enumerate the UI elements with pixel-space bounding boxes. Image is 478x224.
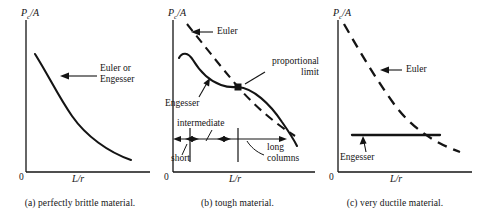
panel-b-caption: (b) tough material. bbox=[155, 198, 320, 208]
annotation-engesser: Engesser bbox=[165, 98, 199, 109]
engesser-leader-line bbox=[199, 83, 207, 97]
buckling-stress-figure: Pc/A L/r 0 Euler or Engesser (a) perfect… bbox=[0, 0, 478, 224]
panel-c-very-ductile: Pc/A L/r 0 Euler Engesser (c) very ducti… bbox=[312, 0, 478, 224]
panel-a-plot bbox=[0, 0, 160, 196]
annotation-intermediate: intermediate bbox=[177, 118, 224, 129]
origin-label: 0 bbox=[164, 172, 169, 182]
annotation-euler: Euler bbox=[217, 26, 238, 37]
panel-c-caption: (c) very ductile material. bbox=[312, 198, 478, 208]
annotation-engesser: Engesser bbox=[340, 152, 374, 163]
annotation-euler-or-engesser: Euler or Engesser bbox=[100, 63, 134, 85]
annotation-short: short bbox=[171, 153, 190, 164]
annotation-line-2: limit bbox=[203, 67, 319, 78]
euler-arrowhead bbox=[380, 66, 389, 73]
engesser-arrowhead bbox=[360, 136, 367, 145]
long-columns-leader-line bbox=[247, 141, 264, 155]
annotation-line-2: columns bbox=[267, 153, 299, 164]
annotation-line-1: long bbox=[267, 142, 299, 153]
x-axis-label: L/r bbox=[229, 173, 241, 184]
engesser-arrowhead bbox=[203, 78, 210, 87]
bracket-arrow-left bbox=[173, 136, 181, 142]
panel-a-caption: (a) perfectly brittle material. bbox=[0, 198, 160, 208]
panel-a-perfectly-brittle: Pc/A L/r 0 Euler or Engesser (a) perfect… bbox=[0, 0, 160, 224]
y-axis-label: Pc/A bbox=[333, 7, 351, 21]
bracket-arrow-mid-left bbox=[191, 136, 199, 142]
panel-b-tough-material: Pc/A L/r 0 Euler Engesser proportional l… bbox=[155, 0, 320, 224]
annotation-line-1: Euler or bbox=[100, 63, 134, 74]
origin-label: 0 bbox=[329, 172, 334, 182]
y-axis-label: Pc/A bbox=[21, 7, 39, 21]
annotation-proportional-limit: proportional limit bbox=[203, 56, 319, 78]
annotation-long-columns: long columns bbox=[267, 142, 299, 164]
curve-euler-dashed bbox=[344, 24, 460, 152]
annotation-euler: Euler bbox=[406, 64, 427, 75]
bracket-arrow-long-left bbox=[223, 136, 231, 142]
origin-label: 0 bbox=[19, 172, 24, 182]
annotation-arrowhead bbox=[60, 72, 69, 79]
panel-c-plot bbox=[312, 0, 478, 196]
proportional-limit-marker bbox=[235, 84, 242, 91]
x-axis-label: L/r bbox=[390, 173, 402, 184]
annotation-line-2: Engesser bbox=[100, 74, 134, 85]
annotation-line-1: proportional bbox=[203, 56, 319, 67]
x-axis-label: L/r bbox=[72, 173, 84, 184]
y-axis-label: Pc/A bbox=[168, 7, 186, 21]
